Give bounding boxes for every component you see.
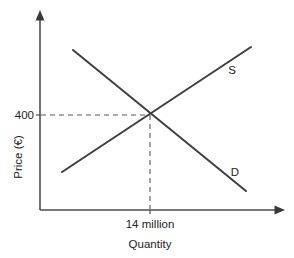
x-axis-title: Quantity bbox=[129, 238, 172, 250]
x-axis-tick-label-14-million: 14 million bbox=[126, 218, 175, 230]
supply-curve-label: S bbox=[228, 64, 236, 76]
supply-curve bbox=[62, 47, 251, 172]
demand-curve-label: D bbox=[231, 166, 239, 178]
y-axis-title: Price (€) bbox=[12, 135, 24, 179]
demand-curve bbox=[73, 50, 246, 191]
y-axis-tick-label-400: 400 bbox=[15, 109, 34, 121]
x-axis-arrow-icon bbox=[275, 206, 286, 215]
supply-demand-chart: 400 14 million Quantity Price (€) S D bbox=[0, 0, 294, 258]
chart-canvas: 400 14 million Quantity Price (€) S D bbox=[0, 0, 294, 258]
y-axis-arrow-icon bbox=[36, 10, 45, 21]
